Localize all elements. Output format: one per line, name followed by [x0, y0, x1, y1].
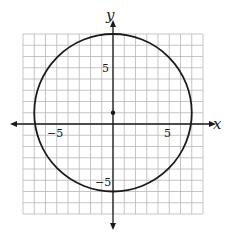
axes [10, 20, 216, 230]
y-axis-arrow-down-icon [110, 223, 116, 230]
x-tick-label-neg5: −5 [47, 127, 63, 140]
y-tick-label-5: 5 [102, 62, 109, 75]
x-axis-arrow-left-icon [10, 121, 17, 127]
coordinate-plane: x y −5 5 5 −5 [0, 0, 232, 237]
y-tick-label-neg5: −5 [95, 176, 111, 189]
x-tick-label-5: 5 [164, 127, 171, 140]
y-axis-label: y [105, 6, 115, 24]
x-axis-label: x [213, 115, 222, 133]
center-point [111, 111, 115, 115]
